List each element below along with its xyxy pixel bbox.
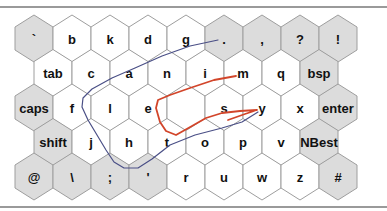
key-label: NBest xyxy=(300,135,338,150)
key-label: r xyxy=(183,170,188,185)
key-label: v xyxy=(277,135,285,150)
key-label: d xyxy=(144,32,152,47)
key-label: y xyxy=(258,101,266,116)
key-label: m xyxy=(237,66,249,81)
key-label: l xyxy=(108,101,112,116)
key-label: j xyxy=(88,135,93,150)
hex-keyboard: `bkdg.,?!tabcanimqbspcapsflesyxentershif… xyxy=(0,0,387,211)
key-label: z xyxy=(297,170,304,185)
key-label: ? xyxy=(296,32,304,47)
keys-layer: `bkdg.,?!tabcanimqbspcapsflesyxentershif… xyxy=(15,15,357,200)
key-label: , xyxy=(260,32,264,47)
key-label: bsp xyxy=(307,66,330,81)
key-label: b xyxy=(68,32,76,47)
key-label: ' xyxy=(146,170,149,185)
key-label: x xyxy=(296,101,304,116)
key-label: n xyxy=(163,66,171,81)
key-label: q xyxy=(277,66,285,81)
key-label: h xyxy=(125,135,133,150)
key-label: @ xyxy=(28,170,41,185)
key-label: ; xyxy=(108,170,112,185)
key-label: # xyxy=(334,170,342,185)
key-label: shift xyxy=(39,135,67,150)
key-label: w xyxy=(256,170,268,185)
key-label: caps xyxy=(19,101,49,116)
key-label: e xyxy=(144,101,151,116)
key-label: g xyxy=(182,32,190,47)
key-label: o xyxy=(201,135,209,150)
key-label: ` xyxy=(32,32,36,47)
key-label: a xyxy=(125,66,133,81)
key-label: c xyxy=(87,66,94,81)
key-label: f xyxy=(70,101,75,116)
key-label: k xyxy=(106,32,114,47)
key-label: p xyxy=(239,135,247,150)
key-label: ! xyxy=(336,32,340,47)
key-label: enter xyxy=(322,101,354,116)
key-label: i xyxy=(203,66,207,81)
key-label: \ xyxy=(70,170,74,185)
key-label: tab xyxy=(43,66,63,81)
key-label: u xyxy=(220,170,228,185)
key-label: . xyxy=(222,32,226,47)
